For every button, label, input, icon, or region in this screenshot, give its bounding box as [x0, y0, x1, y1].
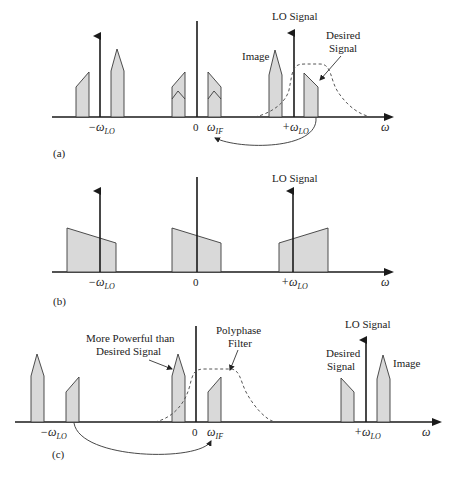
spectrum-image-mirror — [31, 354, 44, 422]
spectrum-image — [269, 50, 282, 117]
lo-signal-label: LO Signal — [272, 10, 318, 22]
panel-caption-b: (b) — [53, 295, 66, 308]
desired-label-line1: Desired — [326, 347, 361, 359]
spectrum-desired-mirror — [76, 72, 89, 117]
tick-pos-lo: +ωLO — [281, 275, 308, 291]
panel-a: LO Signal Image Desired Signal −ωLO 0 ωI… — [52, 10, 389, 160]
desired-label-line2: Signal — [327, 360, 355, 372]
lo-signal-label: LO Signal — [272, 172, 318, 184]
axis-omega-label: ω — [422, 425, 430, 439]
panel-c: More Powerful than Desired Signal Polyph… — [15, 318, 434, 461]
axis-omega-label: ω — [381, 275, 389, 289]
tick-pos-lo: +ωLO — [282, 120, 309, 136]
spectrum-block-pos — [279, 228, 328, 272]
panel-caption-c: (c) — [52, 448, 65, 461]
tick-neg-lo: −ωLO — [40, 425, 67, 441]
spectrum-strong-interferer — [172, 354, 185, 422]
interferer-pointer — [149, 360, 172, 369]
filter-pointer — [230, 350, 238, 370]
tick-zero: 0 — [192, 426, 198, 438]
lo-signal-label: LO Signal — [345, 318, 391, 330]
powerful-label-line1: More Powerful than — [86, 332, 175, 344]
spectrum-desired-mirror — [66, 377, 79, 422]
desired-label-line1: Desired — [326, 29, 361, 41]
spectrum-desired — [304, 73, 318, 117]
powerful-label-line2: Desired Signal — [96, 345, 161, 357]
polyphase-label-line2: Filter — [228, 337, 252, 349]
desired-pointer — [320, 56, 341, 80]
tick-neg-lo: −ωLO — [88, 275, 115, 291]
panel-b: LO Signal −ωLO 0 +ωLO ω (b) — [52, 172, 389, 308]
spectrum-desired — [341, 378, 354, 422]
spectrum-desired-if — [208, 377, 221, 422]
tick-zero: 0 — [193, 276, 199, 288]
spectrum-block-neg — [67, 228, 116, 272]
tick-zero: 0 — [193, 121, 199, 133]
desired-label-line2: Signal — [329, 42, 357, 54]
polyphase-label-line1: Polyphase — [216, 324, 261, 336]
panel-caption-a: (a) — [53, 147, 66, 160]
spectrum-diagram: LO Signal Image Desired Signal −ωLO 0 ωI… — [0, 0, 449, 478]
image-label: Image — [393, 357, 421, 369]
spectrum-if-positive — [208, 72, 221, 117]
tick-if: ωIF — [207, 120, 223, 136]
spectrum-image — [377, 355, 390, 422]
tick-if: ωIF — [207, 425, 223, 441]
spectrum-image-mirror — [111, 49, 124, 117]
image-label: Image — [242, 50, 270, 62]
tick-neg-lo: −ωLO — [88, 120, 115, 136]
downconversion-arrow — [74, 423, 211, 454]
spectrum-if-negative — [172, 72, 185, 117]
axis-omega-label: ω — [381, 120, 389, 134]
tick-pos-lo: +ωLO — [354, 425, 381, 441]
